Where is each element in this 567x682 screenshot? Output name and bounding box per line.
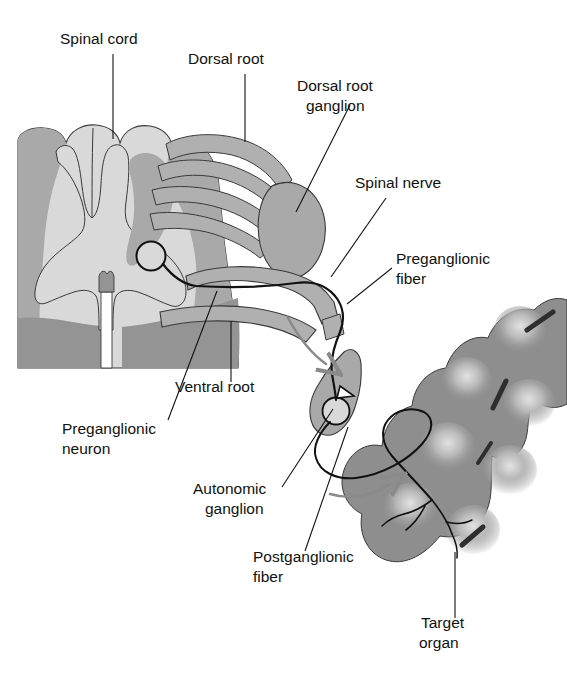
leader-spinal-nerve [331,198,386,277]
target-organ-group [342,298,567,561]
label-dorsal-root: Dorsal root [188,50,264,67]
label-ventral-root: Ventral root [175,378,255,395]
organ-highlight-3 [503,379,555,427]
label-target-organ-line2: organ [419,634,459,651]
leader-preganglionic-fiber [347,268,392,304]
label-spinal-cord: Spinal cord [60,30,138,47]
label-autonomic-ganglion-line2: ganglion [205,500,264,517]
anatomy-figure: Spinal cord Dorsal root Dorsal root gang… [0,0,567,682]
label-autonomic-ganglion-line1: Autonomic [193,480,266,497]
organ-highlight-1 [494,306,546,354]
central-canal [101,292,112,368]
label-dorsal-root-ganglion-line1: Dorsal root [297,77,373,94]
label-preganglionic-neuron-line2: neuron [62,440,110,457]
preganglionic-neuron-soma [137,242,166,271]
diagram-canvas: Spinal cord Dorsal root Dorsal root gang… [0,0,567,682]
postganglionic-neuron-soma [323,398,350,425]
label-preganglionic-fiber-line2: fiber [396,270,426,287]
leader-postganglionic-fiber [305,427,348,551]
label-target-organ-line1: Target [421,614,465,631]
label-dorsal-root-ganglion-line2: ganglion [306,97,365,114]
organ-highlight-6 [384,483,436,531]
label-postganglionic-fiber-line2: fiber [253,568,283,585]
label-spinal-nerve: Spinal nerve [355,174,441,191]
dorsal-root-ganglion [258,182,325,278]
label-preganglionic-fiber-line1: Preganglionic [396,250,490,267]
central-canal-notch [99,271,114,292]
label-postganglionic-fiber-line1: Postganglionic [253,548,354,565]
organ-highlight-4 [421,422,475,472]
leader-dorsal-root-ganglion [296,105,350,212]
organ-highlight-7 [446,505,500,555]
organ-highlight-2 [442,357,492,403]
leader-autonomic-ganglion [282,409,333,487]
organ-highlight-5 [483,445,537,495]
label-preganglionic-neuron-line1: Preganglionic [62,420,156,437]
